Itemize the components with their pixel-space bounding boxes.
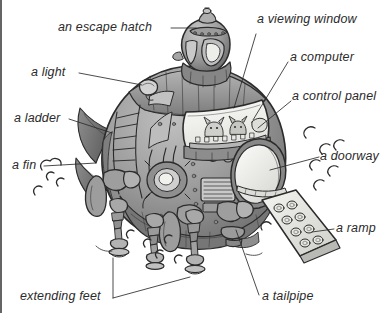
label-extending-feet: extending feet: [20, 290, 101, 303]
label-ladder: a ladder: [14, 112, 60, 125]
label-tailpipe: a tailpipe: [262, 290, 314, 303]
leader-fin: [44, 163, 96, 166]
label-doorway: a doorway: [320, 150, 379, 163]
leg-left: [109, 199, 129, 257]
label-ramp: a ramp: [336, 222, 376, 235]
leader-light: [79, 73, 142, 85]
label-computer: a computer: [290, 51, 354, 64]
label-control-panel: a control panel: [292, 90, 376, 103]
label-light: a light: [31, 66, 65, 79]
label-fin: a fin: [12, 159, 36, 172]
label-escape-hatch: an escape hatch: [58, 21, 152, 34]
ramp-shape: [262, 190, 340, 263]
label-viewing-window: a viewing window: [257, 13, 357, 26]
